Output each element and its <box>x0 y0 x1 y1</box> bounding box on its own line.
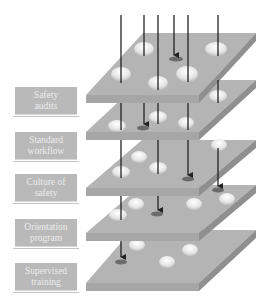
stop-mark <box>182 177 194 182</box>
label-line: training <box>15 277 77 288</box>
label-line: program <box>15 233 77 244</box>
label-supervised-training: Supervised training <box>15 263 77 291</box>
stop-mark <box>115 260 127 265</box>
label-orientation-program: Orientation program <box>15 219 77 247</box>
label-line: Supervised <box>15 266 77 277</box>
label-line: Standard <box>15 135 77 146</box>
label-line: Safety <box>15 90 77 101</box>
divider <box>13 203 79 204</box>
stop-mark <box>212 188 224 193</box>
stop-mark <box>151 212 163 217</box>
label-line: Culture of <box>15 177 77 188</box>
label-line: safety <box>15 188 77 199</box>
label-culture-of-safety: Culture of safety <box>15 174 77 202</box>
label-line: audits <box>15 101 77 112</box>
stop-mark <box>169 57 183 62</box>
label-safety-audits: Safety audits <box>15 87 77 115</box>
divider <box>13 161 79 162</box>
label-line: Orientation <box>15 222 77 233</box>
divider <box>13 116 79 117</box>
divider <box>13 292 79 293</box>
stop-mark <box>137 126 149 131</box>
label-line: workflow <box>15 146 77 157</box>
divider <box>13 248 79 249</box>
label-standard-workflow: Standard workflow <box>15 132 77 160</box>
